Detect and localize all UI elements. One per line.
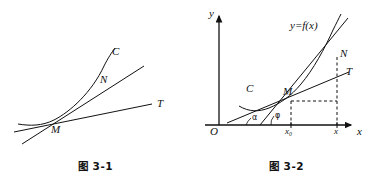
y-axis-label: y [209, 8, 214, 19]
tick-label-x0: x₀ [285, 127, 292, 136]
angle-alpha-arc [246, 118, 251, 125]
secant-line-mn [260, 18, 348, 125]
tick-label-x: x [334, 127, 338, 136]
curve-label-c: C [246, 83, 253, 94]
angle-phi-arc [271, 116, 274, 125]
figure-1-caption: 图 3-1 [0, 158, 191, 173]
figure-3-2-drawing [191, 0, 382, 160]
tangent-label-t: T [346, 66, 352, 77]
point-label-n: N [340, 48, 347, 59]
point-label-n: N [100, 74, 107, 85]
point-label-m: M [51, 124, 60, 135]
tangent-line-mt [14, 104, 152, 132]
function-label-yfx: y=f(x) [290, 20, 318, 31]
origin-label: O [210, 126, 218, 137]
tangent-line-mt [227, 72, 349, 123]
tangent-label-t: T [157, 98, 163, 109]
angle-phi-label: φ [275, 112, 280, 120]
angle-alpha-label: α [252, 114, 257, 122]
point-label-m: M [283, 86, 292, 97]
figure-3-1: C N M T 图 3-1 [0, 0, 191, 187]
x-axis-label: x [357, 126, 362, 137]
figure-3-1-drawing [0, 0, 191, 160]
curve-c-path [18, 48, 115, 125]
figure-3-2: y x O y=f(x) C M N T α φ x₀ x 图 3-2 [191, 0, 382, 187]
secant-line-mn [22, 66, 144, 144]
curve-label-c: C [112, 46, 119, 57]
figure-2-caption: 图 3-2 [191, 158, 382, 173]
